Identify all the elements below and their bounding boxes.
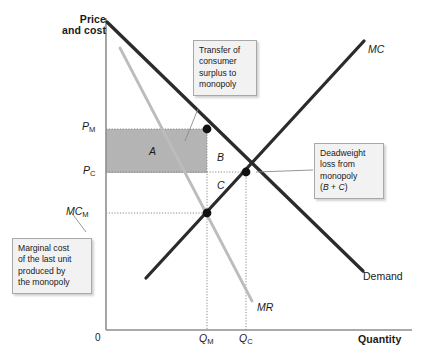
y-tick-label-pm: PM (82, 121, 95, 132)
marginal-cost-callout-line4: the monopoly (18, 277, 86, 288)
marginal-cost-callout-line2: of the last unit (18, 254, 86, 265)
deadweight-callout-line3: monopoly (320, 171, 378, 182)
y-tick-pc-sub: C (90, 169, 95, 178)
transfer-callout-line3: surplus to (199, 68, 251, 79)
demand-curve-label: Demand (363, 271, 403, 282)
deadweight-callout: Deadweight loss from monopoly (B + C) (314, 143, 384, 199)
marginal-cost-callout-line1: Marginal cost (18, 243, 86, 254)
x-tick-label-qm: QM (199, 333, 214, 344)
y-tick-pm-sub: M (89, 125, 95, 134)
origin-label: 0 (95, 333, 101, 344)
transfer-callout-line4: monopoly (199, 79, 251, 90)
y-axis-title: Priceand cost (54, 14, 106, 36)
x-axis-title: Quantity (358, 334, 401, 345)
marginal-revenue-curve-label: MR (257, 302, 273, 313)
y-tick-mcm-sub: M (82, 210, 88, 219)
marginal-cost-curve-label: MC (368, 44, 384, 55)
marginal-cost-callout: Marginal cost of the last unit produced … (12, 238, 92, 294)
y-tick-pm-base: P (82, 120, 89, 132)
y-axis-title-line1: Priceand cost (62, 13, 106, 36)
x-tick-qm-sub: M (207, 337, 213, 346)
monopoly-point (203, 125, 212, 134)
transfer-callout-line1: Transfer of (199, 45, 251, 56)
region-a-shading (106, 129, 207, 173)
transfer-callout-line2: consumer (199, 56, 251, 67)
marginal-cost-callout-line3: produced by (18, 266, 86, 277)
region-c-label: C (217, 180, 225, 191)
mc-at-qm-point (203, 209, 212, 218)
monopoly-deadweight-loss-diagram: Priceand cost Quantity 0 PM PC MCM QM QC… (0, 0, 429, 353)
region-b-label: B (217, 152, 224, 163)
x-tick-label-qc: QC (239, 333, 253, 344)
competitive-point (242, 168, 251, 177)
deadweight-callout-line1: Deadweight (320, 148, 378, 159)
y-tick-mcm-base: MC (66, 205, 82, 217)
deadweight-callout-token-b: B (323, 182, 329, 192)
deadweight-callout-line4: (B + C) (320, 182, 378, 193)
transfer-callout: Transfer of consumer surplus to monopoly (193, 40, 257, 96)
y-tick-label-pc: PC (83, 165, 96, 176)
x-tick-qc-sub: C (247, 337, 252, 346)
y-tick-pc-base: P (83, 164, 90, 176)
y-tick-label-mcm: MCM (66, 206, 89, 217)
deadweight-callout-token-c: C (338, 182, 344, 192)
region-a-label: A (149, 146, 156, 157)
deadweight-callout-line2: loss from (320, 159, 378, 170)
x-tick-qc-base: Q (239, 332, 247, 344)
x-tick-qm-base: Q (199, 332, 207, 344)
